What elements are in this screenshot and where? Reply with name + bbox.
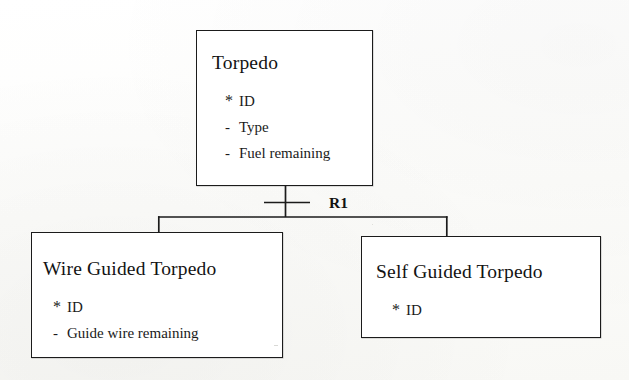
scan-speck: [372, 224, 373, 225]
attribute-name: Guide wire remaining: [67, 326, 199, 341]
attribute-name: ID: [406, 303, 422, 318]
attribute-list-torpedo: * ID - Type - Fuel remaining: [225, 93, 330, 172]
diagram-canvas: R1 Torpedo * ID - Type - Fuel remaining …: [0, 0, 629, 380]
attribute-list-wire-guided-torpedo: * ID - Guide wire remaining: [53, 299, 199, 352]
entity-name-self-guided-torpedo: Self Guided Torpedo: [376, 262, 543, 282]
attribute-row: * ID: [53, 299, 199, 315]
attribute-marker-dash: -: [225, 146, 239, 161]
attribute-marker-dash: -: [53, 326, 67, 341]
attribute-row: * ID: [392, 302, 422, 318]
entity-name-torpedo: Torpedo: [212, 53, 278, 73]
attribute-row: * ID: [225, 93, 330, 109]
relationship-label-r1: R1: [329, 195, 348, 211]
attribute-name: ID: [67, 300, 83, 315]
attribute-marker-identifier: *: [53, 299, 67, 315]
entity-box-torpedo[interactable]: Torpedo * ID - Type - Fuel remaining: [196, 30, 373, 186]
attribute-row: - Guide wire remaining: [53, 326, 199, 341]
attribute-list-self-guided-torpedo: * ID: [392, 302, 422, 329]
attribute-row: - Fuel remaining: [225, 146, 330, 161]
attribute-row: - Type: [225, 120, 330, 135]
attribute-marker-dash: -: [225, 120, 239, 135]
entity-name-wire-guided-torpedo: Wire Guided Torpedo: [43, 259, 217, 279]
attribute-name: ID: [239, 94, 255, 109]
entity-box-self-guided-torpedo[interactable]: Self Guided Torpedo * ID: [361, 236, 601, 338]
entity-box-wire-guided-torpedo[interactable]: Wire Guided Torpedo * ID - Guide wire re…: [31, 232, 283, 358]
attribute-marker-identifier: *: [225, 93, 239, 109]
attribute-name: Type: [239, 120, 269, 135]
attribute-marker-identifier: *: [392, 302, 406, 318]
attribute-name: Fuel remaining: [239, 146, 330, 161]
